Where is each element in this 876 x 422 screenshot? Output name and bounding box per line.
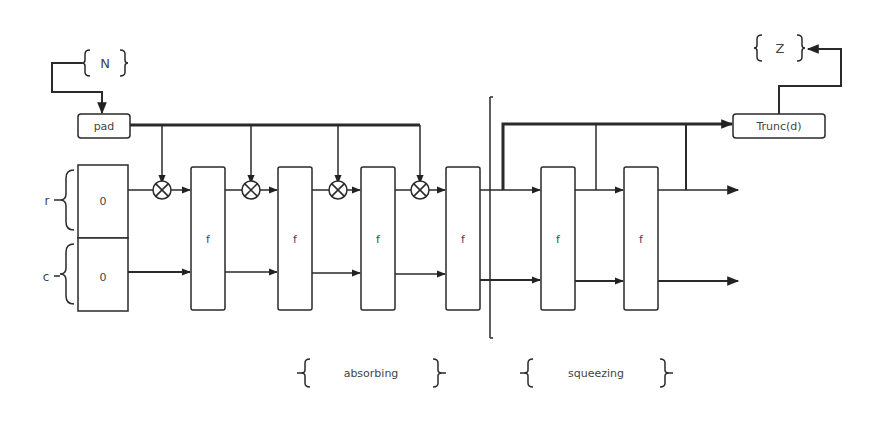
- trunc-label: Trunc(d): [755, 120, 801, 133]
- sponge-diagram: N Z pad Trunc(d) r c 0 0 f f f f f f abs…: [0, 0, 876, 422]
- xor-2: [242, 181, 260, 199]
- capacity-label: c: [43, 270, 50, 284]
- input-n-label: N: [100, 56, 110, 71]
- input-to-pad-arrow: [52, 63, 102, 113]
- rate-brace: [60, 170, 74, 230]
- xor-1: [153, 181, 171, 199]
- capacity-brace: [60, 244, 74, 304]
- capacity-init-value: 0: [100, 271, 107, 284]
- xor-4: [411, 181, 429, 199]
- rate-init-value: 0: [100, 195, 107, 208]
- output-z-label: Z: [776, 41, 785, 56]
- absorbing-label: absorbing: [344, 367, 399, 380]
- xor-3: [329, 181, 347, 199]
- trunc-to-output-arrow: [779, 49, 841, 114]
- pad-label: pad: [94, 120, 115, 133]
- rate-label: r: [45, 194, 50, 208]
- squeezing-label: squeezing: [568, 367, 624, 380]
